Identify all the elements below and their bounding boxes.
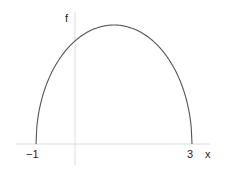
function-curve (36, 25, 192, 144)
chart: f x −1 3 (0, 0, 228, 174)
y-axis-label: f (65, 12, 69, 24)
tick-label-neg1: −1 (26, 148, 39, 160)
x-axis-label: x (205, 148, 211, 160)
tick-label-3: 3 (187, 148, 193, 160)
